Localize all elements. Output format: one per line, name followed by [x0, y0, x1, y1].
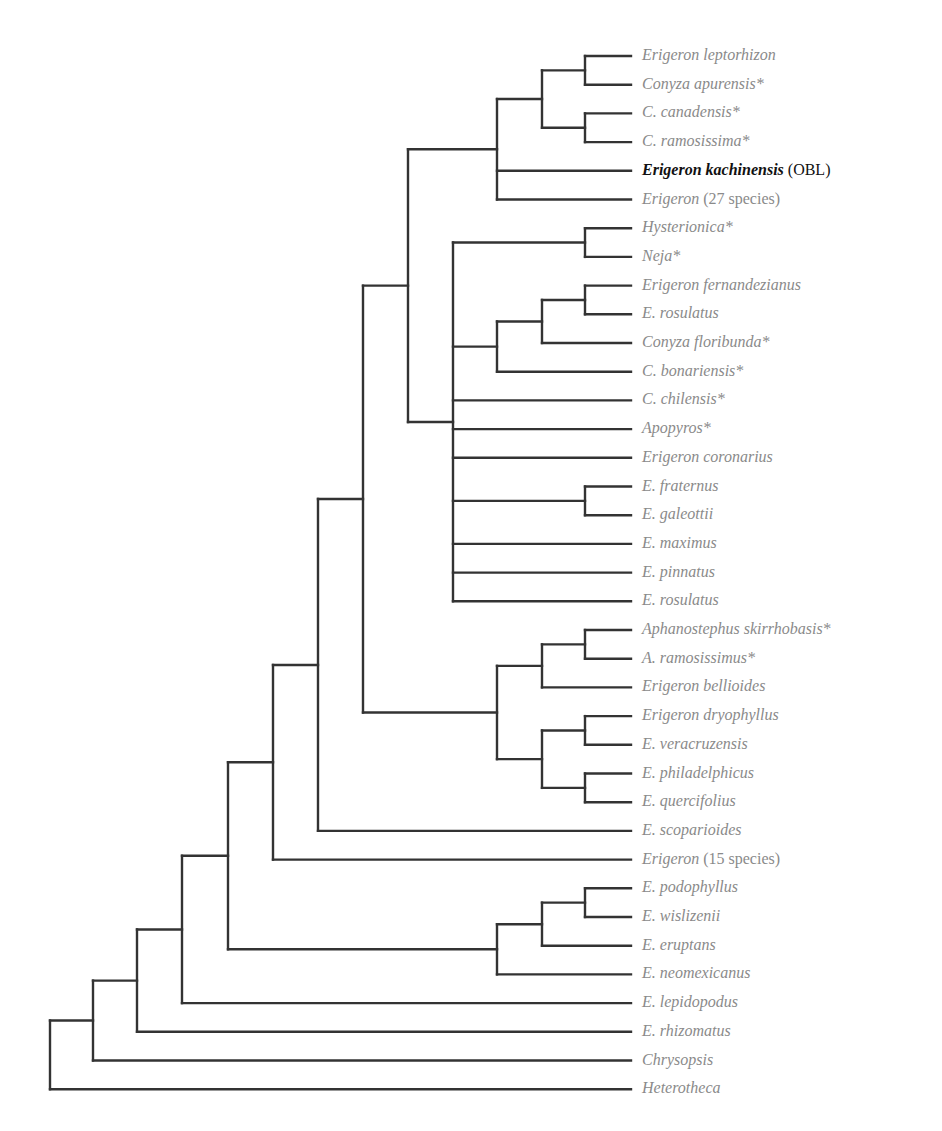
leaf-label: E. veracruzensis: [642, 735, 748, 753]
taxon-name: Chrysopsis: [642, 1051, 713, 1068]
taxon-name: E. pinnatus: [642, 563, 715, 580]
leaf-label: Erigeron leptorhizon: [642, 46, 776, 64]
taxon-name: Erigeron: [642, 850, 699, 867]
leaf-label: Conyza floribunda*: [642, 333, 770, 351]
leaf-label: E. galeottii: [642, 505, 713, 523]
taxon-name: Erigeron bellioides: [642, 677, 765, 694]
leaf-label: Aphanostephus skirrhobasis*: [642, 620, 831, 638]
leaf-label: Erigeron fernandezianus: [642, 276, 801, 294]
leaf-label: Heterotheca: [642, 1079, 720, 1097]
leaf-label: C. ramosissima*: [642, 132, 750, 150]
leaf-label: E. fraternus: [642, 477, 718, 495]
taxon-name: E. scoparioides: [642, 821, 742, 838]
taxon-name: E. lepidopodus: [642, 993, 738, 1010]
leaf-label: C. chilensis*: [642, 390, 725, 408]
taxon-name: Hysterionica*: [642, 218, 733, 235]
taxon-name: E. galeottii: [642, 505, 713, 522]
taxon-name: E. podophyllus: [642, 878, 738, 895]
leaf-label: C. bonariensis*: [642, 362, 743, 380]
taxon-name: E. philadelphicus: [642, 764, 754, 781]
taxon-name: A. ramosissimus*: [642, 649, 755, 666]
leaf-label: E. podophyllus: [642, 878, 738, 896]
leaf-label: Erigeron dryophyllus: [642, 706, 779, 724]
taxon-note: (27 species): [699, 190, 780, 207]
leaf-label: Erigeron kachinensis (OBL): [642, 161, 830, 179]
taxon-name: C. ramosissima*: [642, 132, 750, 149]
leaf-label: E. scoparioides: [642, 821, 742, 839]
leaf-label: E. neomexicanus: [642, 964, 750, 982]
taxon-name: Erigeron dryophyllus: [642, 706, 779, 723]
leaf-label: E. lepidopodus: [642, 993, 738, 1011]
taxon-name: E. fraternus: [642, 477, 718, 494]
taxon-name: E. rhizomatus: [642, 1022, 731, 1039]
leaf-label: Chrysopsis: [642, 1051, 713, 1069]
taxon-name: E. quercifolius: [642, 792, 736, 809]
leaf-label: Erigeron (27 species): [642, 190, 780, 208]
taxon-name: E. wislizenii: [642, 907, 720, 924]
taxon-name: E. eruptans: [642, 936, 716, 953]
taxon-name: Apopyros*: [642, 419, 711, 436]
taxon-name: Erigeron: [642, 190, 699, 207]
taxon-name: E. neomexicanus: [642, 964, 750, 981]
taxon-note: (OBL): [784, 161, 831, 178]
leaf-label: Neja*: [642, 247, 680, 265]
leaf-label: Erigeron (15 species): [642, 850, 780, 868]
taxon-name: E. rosulatus: [642, 304, 719, 321]
leaf-label: Conyza apurensis*: [642, 75, 764, 93]
taxon-name: Neja*: [642, 247, 680, 264]
leaf-label: E. quercifolius: [642, 792, 736, 810]
leaf-label: E. philadelphicus: [642, 764, 754, 782]
taxon-name: E. veracruzensis: [642, 735, 748, 752]
taxon-name: Conyza apurensis*: [642, 75, 764, 92]
leaf-label: C. canadensis*: [642, 103, 740, 121]
taxon-name: Conyza floribunda*: [642, 333, 770, 350]
leaf-label: E. eruptans: [642, 936, 716, 954]
taxon-name: Erigeron coronarius: [642, 448, 773, 465]
taxon-name: Aphanostephus skirrhobasis*: [642, 620, 831, 637]
taxon-name: E. rosulatus: [642, 591, 719, 608]
leaf-label: Erigeron bellioides: [642, 677, 765, 695]
leaf-label: Apopyros*: [642, 419, 711, 437]
leaf-label: E. rosulatus: [642, 304, 719, 322]
leaf-label: E. wislizenii: [642, 907, 720, 925]
taxon-name: Erigeron leptorhizon: [642, 46, 776, 63]
taxon-name: Erigeron fernandezianus: [642, 276, 801, 293]
taxon-name: Erigeron kachinensis: [642, 161, 784, 178]
leaf-label: A. ramosissimus*: [642, 649, 755, 667]
leaf-label: E. maximus: [642, 534, 717, 552]
taxon-name: C. chilensis*: [642, 390, 725, 407]
leaf-label: Hysterionica*: [642, 218, 733, 236]
leaf-label: E. pinnatus: [642, 563, 715, 581]
taxon-name: C. canadensis*: [642, 103, 740, 120]
leaf-label: E. rhizomatus: [642, 1022, 731, 1040]
leaf-label: Erigeron coronarius: [642, 448, 773, 466]
taxon-name: E. maximus: [642, 534, 717, 551]
taxon-note: (15 species): [699, 850, 780, 867]
leaf-label: E. rosulatus: [642, 591, 719, 609]
taxon-name: C. bonariensis*: [642, 362, 743, 379]
taxon-name: Heterotheca: [642, 1079, 720, 1096]
